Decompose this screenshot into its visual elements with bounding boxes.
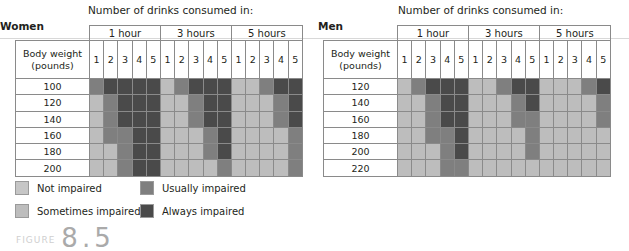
impairment-cell xyxy=(260,160,274,176)
body-weight-value: 200 xyxy=(324,144,398,160)
impairment-cell xyxy=(440,127,454,143)
impairment-cell xyxy=(582,79,596,95)
impairment-cell xyxy=(468,127,482,143)
legend-label: Sometimes impaired xyxy=(37,206,141,217)
impairment-cell xyxy=(412,160,426,176)
impairment-cell xyxy=(288,95,302,111)
impairment-cell xyxy=(160,160,174,176)
impairment-cell xyxy=(525,95,539,111)
impairment-cell xyxy=(217,144,231,160)
impairment-cell xyxy=(189,160,203,176)
table-row: 140 xyxy=(324,95,611,111)
impairment-cell xyxy=(539,127,553,143)
legend-label: Not impaired xyxy=(37,183,102,194)
men-caption: Number of drinks consumed in: xyxy=(398,4,563,16)
impairment-cell xyxy=(426,79,440,95)
impairment-cell xyxy=(160,144,174,160)
impairment-cell xyxy=(582,127,596,143)
column-header-row: Body weight(pounds)123451234512345 xyxy=(324,41,611,79)
impairment-cell xyxy=(525,144,539,160)
impairment-cell xyxy=(596,127,610,143)
impairment-cell xyxy=(454,127,468,143)
impairment-cell xyxy=(175,144,189,160)
group-header-row: 1 hour3 hours5 hours xyxy=(16,26,303,41)
impairment-cell xyxy=(539,79,553,95)
impairment-cell xyxy=(203,127,217,143)
group-header: 1 hour xyxy=(398,26,469,41)
not-impaired-swatch xyxy=(15,181,29,195)
body-weight-value: 120 xyxy=(324,79,398,95)
impairment-cell xyxy=(511,111,525,127)
legend-item-sometimes-impaired: Sometimes impaired xyxy=(15,204,141,218)
impairment-cell xyxy=(511,144,525,160)
impairment-cell xyxy=(274,111,288,127)
impairment-cell xyxy=(582,111,596,127)
body-weight-value: 140 xyxy=(324,95,398,111)
impairment-cell xyxy=(104,111,118,127)
impairment-cell xyxy=(525,79,539,95)
drink-count-header: 2 xyxy=(246,41,260,79)
group-header: 3 hours xyxy=(468,26,539,41)
impairment-cell xyxy=(440,160,454,176)
impairment-cell xyxy=(189,79,203,95)
impairment-cell xyxy=(104,95,118,111)
drink-count-header: 1 xyxy=(231,41,245,79)
table-row: 200 xyxy=(324,144,611,160)
impairment-cell xyxy=(525,160,539,176)
impairment-cell xyxy=(426,127,440,143)
table-row: 180 xyxy=(16,144,303,160)
impairment-cell xyxy=(246,95,260,111)
impairment-cell xyxy=(260,79,274,95)
impairment-cell xyxy=(468,95,482,111)
impairment-cell xyxy=(398,111,412,127)
impairment-cell xyxy=(217,95,231,111)
impairment-cell xyxy=(440,79,454,95)
impairment-cell xyxy=(104,144,118,160)
drink-count-header: 2 xyxy=(412,41,426,79)
drink-count-header: 3 xyxy=(189,41,203,79)
impairment-cell xyxy=(554,95,568,111)
group-header: 5 hours xyxy=(539,26,610,41)
impairment-cell xyxy=(118,160,132,176)
impairment-cell xyxy=(217,127,231,143)
column-header-row: Body weight(pounds)123451234512345 xyxy=(16,41,303,79)
impairment-cell xyxy=(596,144,610,160)
impairment-cell xyxy=(568,95,582,111)
impairment-cell xyxy=(596,95,610,111)
drink-count-header: 5 xyxy=(146,41,160,79)
impairment-cell xyxy=(203,111,217,127)
impairment-cell xyxy=(132,127,146,143)
impairment-cell xyxy=(497,127,511,143)
impairment-cell xyxy=(189,144,203,160)
impairment-cell xyxy=(412,127,426,143)
drink-count-header: 3 xyxy=(426,41,440,79)
impairment-cell xyxy=(118,111,132,127)
impairment-cell xyxy=(539,144,553,160)
impairment-cell xyxy=(203,144,217,160)
body-weight-value: 160 xyxy=(16,127,90,143)
impairment-cell xyxy=(554,160,568,176)
corner-blank xyxy=(16,26,90,41)
body-weight-value: 200 xyxy=(16,160,90,176)
impairment-cell xyxy=(596,111,610,127)
group-header: 5 hours xyxy=(231,26,302,41)
impairment-cell xyxy=(511,127,525,143)
legend-label: Usually impaired xyxy=(162,183,246,194)
drink-count-header: 1 xyxy=(90,41,104,79)
impairment-cell xyxy=(175,79,189,95)
drink-count-header: 2 xyxy=(554,41,568,79)
impairment-cell xyxy=(582,95,596,111)
impairment-cell xyxy=(497,160,511,176)
sometimes-impaired-swatch xyxy=(15,204,29,218)
impairment-cell xyxy=(497,79,511,95)
body-weight-value: 180 xyxy=(16,144,90,160)
units-label: (pounds) xyxy=(339,60,381,71)
impairment-cell xyxy=(454,95,468,111)
impairment-cell xyxy=(246,79,260,95)
impairment-cell xyxy=(217,79,231,95)
drink-count-header: 4 xyxy=(132,41,146,79)
body-weight-value: 180 xyxy=(324,127,398,143)
impairment-cell xyxy=(160,95,174,111)
drink-count-header: 2 xyxy=(104,41,118,79)
impairment-cell xyxy=(596,160,610,176)
